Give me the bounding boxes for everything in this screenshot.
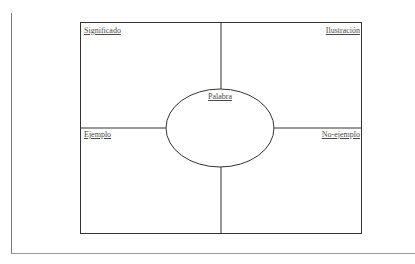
- quadrant-label-ilustracion: Ilustración: [326, 27, 360, 35]
- quadrant-label-no-ejemplo: No-ejemplo: [322, 131, 360, 139]
- center-word-label: Palabra: [208, 93, 232, 101]
- quadrant-label-significado: Significado: [84, 27, 121, 35]
- quadrant-label-ejemplo: Ejemplo: [84, 131, 111, 139]
